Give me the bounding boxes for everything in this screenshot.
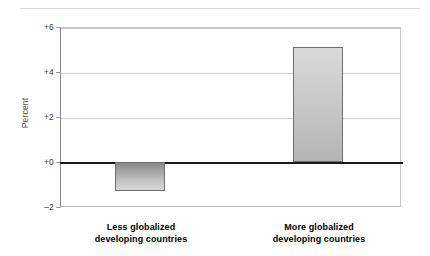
x-axis-category-label-more-globalized: More globalized developing countries bbox=[243, 222, 395, 245]
category-label-line-2: developing countries bbox=[65, 234, 217, 246]
y-axis-tick-label-4: +4 bbox=[8, 67, 54, 77]
top-divider-rule bbox=[20, 8, 420, 9]
gridline-4 bbox=[61, 73, 400, 74]
category-label-line-1: More globalized bbox=[243, 222, 395, 234]
y-axis-tick-label-2: +2 bbox=[8, 112, 54, 122]
gridline-2 bbox=[61, 118, 400, 119]
y-axis-tick-label-0: +0 bbox=[8, 157, 54, 167]
y-axis-tick-mark-minus2 bbox=[56, 207, 61, 208]
gridline-6 bbox=[61, 28, 400, 29]
bar-less-globalized[interactable] bbox=[115, 162, 165, 191]
bar-more-globalized[interactable] bbox=[293, 47, 343, 162]
category-label-line-1: Less globalized bbox=[65, 222, 217, 234]
plot-area bbox=[60, 27, 401, 207]
y-axis-tick-label-6: +6 bbox=[8, 22, 54, 32]
y-axis-tick-label-minus2: –2 bbox=[8, 202, 54, 212]
x-axis-category-label-less-globalized: Less globalized developing countries bbox=[65, 222, 217, 245]
bar-chart-figure: Percent +6 +4 +2 +0 –2 Less globalized d… bbox=[0, 0, 430, 256]
zero-baseline bbox=[60, 162, 403, 164]
category-label-line-2: developing countries bbox=[243, 234, 395, 246]
